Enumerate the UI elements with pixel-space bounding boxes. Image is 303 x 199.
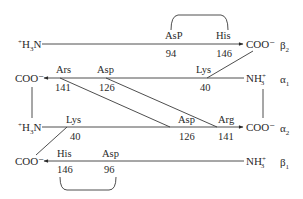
alpha1-residue-126: 126 <box>99 82 115 93</box>
beta2-bracket <box>171 15 228 30</box>
alpha1-c-terminus: COO⁻ <box>15 72 44 84</box>
beta2-residue-asp: AsP <box>165 30 183 41</box>
beta1-residue-his: His <box>57 148 72 159</box>
alpha2-residue-141: 141 <box>218 131 234 142</box>
chain-beta2: +H3N COO⁻ β2 AsP 94 His 146 <box>18 15 290 59</box>
alpha1-residue-asp: Asp <box>97 64 114 75</box>
alpha2-chain-label: α2 <box>280 122 290 137</box>
beta2-residue-his: His <box>216 30 231 41</box>
alpha2-c-terminus: COO⁻ <box>246 121 275 133</box>
alpha1-residue-arg: Ars <box>56 64 71 75</box>
chain-beta1: COO⁻ NH+3 β1 His 146 Asp 96 <box>15 148 290 190</box>
alpha1-residue-lys: Lys <box>196 64 211 75</box>
alpha2-residue-lys: Lys <box>66 114 81 125</box>
beta1-residue-96: 96 <box>104 164 115 175</box>
beta2-n-terminus: +H3N <box>18 38 41 53</box>
salt-bridge-diagram: +H3N COO⁻ β2 AsP 94 His 146 COO⁻ NH+3 α1… <box>0 0 303 199</box>
alpha2-residue-40: 40 <box>70 131 81 142</box>
alpha2-residue-126: 126 <box>179 131 195 142</box>
beta1-residue-146: 146 <box>57 164 73 175</box>
beta2-residue-146: 146 <box>216 48 232 59</box>
chain-alpha1: COO⁻ NH+3 α1 Ars 141 Asp 126 Lys 40 <box>15 64 290 93</box>
beta1-chain-label: β1 <box>280 156 290 171</box>
beta1-bracket <box>60 177 116 190</box>
alpha1-n-terminus: NH+3 <box>246 72 266 87</box>
beta1-n-terminus: NH+3 <box>246 155 266 170</box>
beta2-chain-label: β2 <box>280 39 290 54</box>
beta2-c-terminus: COO⁻ <box>246 38 275 50</box>
alpha2-residue-arg: Arg <box>218 114 235 125</box>
alpha1-residue-141: 141 <box>55 82 71 93</box>
beta2-residue-94: 94 <box>166 48 177 59</box>
chain-alpha2: +H3N COO⁻ α2 Lys 40 Asp 126 Arg 141 <box>18 114 290 142</box>
beta1-residue-asp: Asp <box>102 148 119 159</box>
alpha2-n-terminus: +H3N <box>18 121 41 136</box>
alpha1-residue-40: 40 <box>200 82 211 93</box>
beta1-c-terminus: COO⁻ <box>15 155 44 167</box>
alpha1-chain-label: α1 <box>280 73 290 88</box>
